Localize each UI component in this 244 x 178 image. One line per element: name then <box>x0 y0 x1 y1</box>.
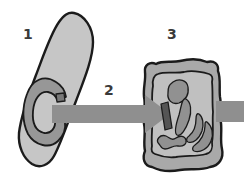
label-transfer-arrow: 2 <box>104 82 114 98</box>
output-arrow <box>216 101 244 122</box>
diagram-canvas: 1 2 3 <box>0 0 244 178</box>
endosymbiosis-diagram: 1 2 3 <box>0 0 244 178</box>
label-cell-3: 3 <box>167 26 177 42</box>
cell-1-particle <box>56 93 65 102</box>
label-cell-1: 1 <box>23 26 33 42</box>
